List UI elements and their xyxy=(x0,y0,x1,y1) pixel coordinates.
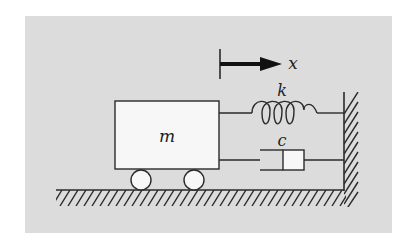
wheel-left xyxy=(131,170,151,190)
damper-label: c xyxy=(278,131,287,150)
wheel-right xyxy=(184,170,204,190)
displacement-label: x xyxy=(288,53,298,73)
mass-label: m xyxy=(159,126,175,146)
spring-label: k xyxy=(277,81,287,100)
mass-block: m xyxy=(115,101,219,169)
mass-spring-damper-diagram: m k c x xyxy=(0,0,405,238)
